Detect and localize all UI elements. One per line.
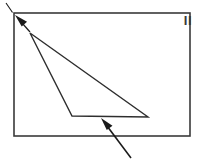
panel-label: II (184, 14, 192, 27)
panel-background (0, 0, 200, 159)
figure-container: II (0, 0, 200, 159)
diagram-canvas (0, 0, 200, 159)
